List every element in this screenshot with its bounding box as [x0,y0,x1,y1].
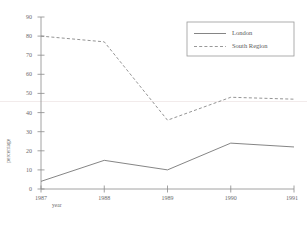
legend-label-south-region: South Region [232,43,268,50]
y-tick-label-80: 80 [10,33,32,39]
y-tick-label-10: 10 [10,167,32,173]
x-tick-label-1990: 1990 [216,195,246,201]
x-axis-title: year [52,203,61,209]
series-line-london [41,143,294,181]
legend-box [187,22,294,56]
x-tick-label-1987: 1987 [26,195,56,201]
legend-label-london: London [232,30,252,37]
y-tick-label-0: 0 [10,186,32,192]
y-axis-title: percentage [6,130,12,172]
y-tick-label-40: 40 [10,110,32,116]
line-chart: 90 80 70 60 50 40 30 20 10 0 1987 1988 1… [0,0,307,226]
y-tick-label-30: 30 [10,129,32,135]
x-tick-label-1991: 1991 [277,195,307,201]
x-tick-label-1989: 1989 [153,195,183,201]
y-tick-label-90: 90 [10,14,32,20]
y-tick-label-70: 70 [10,52,32,58]
x-tick-label-1988: 1988 [89,195,119,201]
y-tick-label-50: 50 [10,90,32,96]
y-tick-label-60: 60 [10,71,32,77]
chart-canvas [0,0,307,226]
y-tick-label-20: 20 [10,148,32,154]
